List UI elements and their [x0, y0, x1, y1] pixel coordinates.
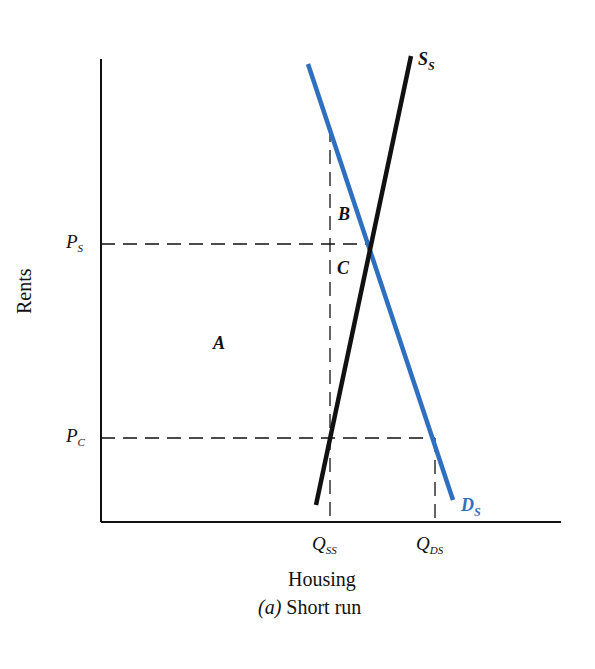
x-axis-title: Housing: [288, 568, 356, 591]
qds-label: QDS: [416, 533, 443, 555]
pc-label: PC: [66, 425, 85, 447]
figure-caption: (a) Short run: [258, 596, 361, 619]
demand-label: DS: [461, 495, 481, 516]
region-c-label: C: [337, 258, 349, 279]
qss-label: QSS: [312, 533, 337, 555]
region-a-label: A: [213, 333, 225, 354]
supply-label: SS: [418, 49, 435, 70]
ps-label: PS: [66, 231, 83, 253]
region-b-label: B: [338, 204, 350, 225]
caption-text: Short run: [281, 596, 361, 618]
caption-prefix: (a): [258, 596, 281, 618]
y-axis-title: Rents: [13, 268, 36, 314]
